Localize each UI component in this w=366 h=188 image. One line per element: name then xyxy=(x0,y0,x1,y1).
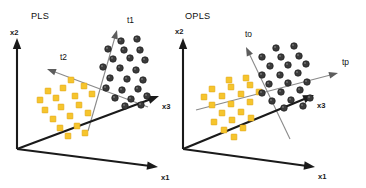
data-point-yellow xyxy=(50,116,56,122)
data-point-dark-highlight xyxy=(282,106,284,108)
data-point-dark xyxy=(134,36,141,43)
data-point-dark xyxy=(105,46,112,53)
data-point-dark xyxy=(295,70,302,77)
data-point-dark xyxy=(269,98,276,105)
data-point-dark-highlight xyxy=(108,76,110,78)
data-point-dark-highlight xyxy=(143,58,145,60)
data-point-yellow xyxy=(76,102,82,108)
data-point-dark xyxy=(119,87,126,94)
data-point-yellow xyxy=(57,125,63,131)
data-point-dark-highlight xyxy=(286,81,288,83)
data-point-dark xyxy=(281,105,288,112)
data-point-yellow xyxy=(231,134,237,140)
component-opls-tp-head xyxy=(328,72,338,79)
data-point-yellow xyxy=(89,91,95,97)
axis-pls-x3: x3 xyxy=(17,96,170,149)
data-point-yellow xyxy=(247,99,253,105)
data-point-yellow xyxy=(219,110,225,116)
data-point-dark-highlight xyxy=(113,96,115,98)
data-point-dark-highlight xyxy=(125,77,127,79)
data-point-dark xyxy=(127,55,134,62)
data-point-dark xyxy=(278,54,285,61)
data-point-dark-highlight xyxy=(279,55,281,57)
data-point-dark-highlight xyxy=(129,97,131,99)
data-point-yellow xyxy=(229,117,235,123)
data-point-dark-highlight xyxy=(134,68,136,70)
data-point-dark xyxy=(267,63,274,70)
data-point-dark xyxy=(285,62,292,69)
data-point-dark-highlight xyxy=(135,37,137,39)
data-point-dark xyxy=(259,54,266,61)
figure-canvas: PLSt1t2x2x1x3OPLStotpx2x1x3 xyxy=(0,0,366,188)
data-point-yellow xyxy=(228,84,234,90)
data-point-yellow xyxy=(60,85,66,91)
data-point-yellow xyxy=(85,110,91,116)
axis-opls-x1-head xyxy=(304,161,315,169)
data-point-dark-highlight xyxy=(296,71,298,73)
data-point-dark-highlight xyxy=(304,62,306,64)
data-point-dark xyxy=(266,81,273,88)
data-point-dark-highlight xyxy=(118,66,120,68)
data-point-dark-highlight xyxy=(141,78,143,80)
component-label-pls-t2: t2 xyxy=(60,52,67,62)
data-point-dark xyxy=(303,61,310,68)
data-point-dark xyxy=(110,56,117,63)
axis-pls-x1-head xyxy=(147,161,158,169)
panel-opls: OPLStotpx2x1x3 xyxy=(175,11,349,181)
data-point-dark xyxy=(259,72,266,79)
data-point-yellow xyxy=(53,95,59,101)
axis-pls-x3-shaft xyxy=(17,99,150,149)
axis-label-pls-x3: x3 xyxy=(162,102,170,111)
data-point-dark xyxy=(121,47,128,54)
data-point-dark xyxy=(100,64,107,71)
class-yellow-opls xyxy=(201,75,262,140)
data-point-dark-highlight xyxy=(268,64,270,66)
data-point-dark xyxy=(103,85,110,92)
panel-title-pls: PLS xyxy=(31,11,49,21)
data-point-dark xyxy=(291,43,298,50)
data-point-dark-highlight xyxy=(267,82,269,84)
axis-opls-x2-head xyxy=(179,38,187,49)
data-point-dark-highlight xyxy=(308,96,310,98)
data-point-yellow xyxy=(226,77,232,83)
data-point-yellow xyxy=(221,127,227,133)
data-point-dark-highlight xyxy=(292,44,294,46)
data-point-dark-highlight xyxy=(270,99,272,101)
data-point-dark xyxy=(117,65,124,72)
data-point-dark xyxy=(118,38,125,45)
data-point-yellow xyxy=(248,115,254,121)
data-point-dark xyxy=(304,79,311,86)
data-point-dark-highlight xyxy=(101,65,103,67)
axis-pls-x1: x1 xyxy=(17,149,170,182)
component-opls-to-head xyxy=(246,47,253,57)
component-label-pls-t1: t1 xyxy=(127,15,134,25)
data-point-yellow xyxy=(228,101,234,107)
axis-pls-x1-shaft xyxy=(17,149,148,166)
component-label-opls-tp: tp xyxy=(342,57,349,67)
data-point-yellow xyxy=(58,104,64,110)
data-point-yellow xyxy=(81,83,87,89)
data-point-dark-highlight xyxy=(139,103,141,105)
data-point-yellow xyxy=(219,93,225,99)
data-point-dark xyxy=(273,45,280,52)
data-point-dark xyxy=(285,80,292,87)
axis-opls-x2: x2 xyxy=(175,27,187,149)
data-point-dark xyxy=(122,103,129,110)
data-point-yellow xyxy=(65,133,71,139)
data-point-dark-highlight xyxy=(260,55,262,57)
scatter-plot-svg: PLSt1t2x2x1x3OPLStotpx2x1x3 xyxy=(0,0,366,188)
data-point-dark-highlight xyxy=(260,91,262,93)
data-point-dark xyxy=(278,89,285,96)
data-point-dark xyxy=(137,47,144,54)
data-point-yellow xyxy=(74,123,80,129)
data-point-yellow xyxy=(201,94,207,100)
axis-label-opls-x3: x3 xyxy=(317,101,325,110)
data-point-dark-highlight xyxy=(305,80,307,82)
data-point-yellow xyxy=(72,93,78,99)
data-point-dark xyxy=(296,53,303,60)
panel-pls: PLSt1t2x2x1x3 xyxy=(10,11,170,182)
data-point-dark xyxy=(288,97,295,104)
panel-title-opls: OPLS xyxy=(185,11,210,21)
data-point-dark xyxy=(142,57,149,64)
data-point-dark-highlight xyxy=(278,73,280,75)
